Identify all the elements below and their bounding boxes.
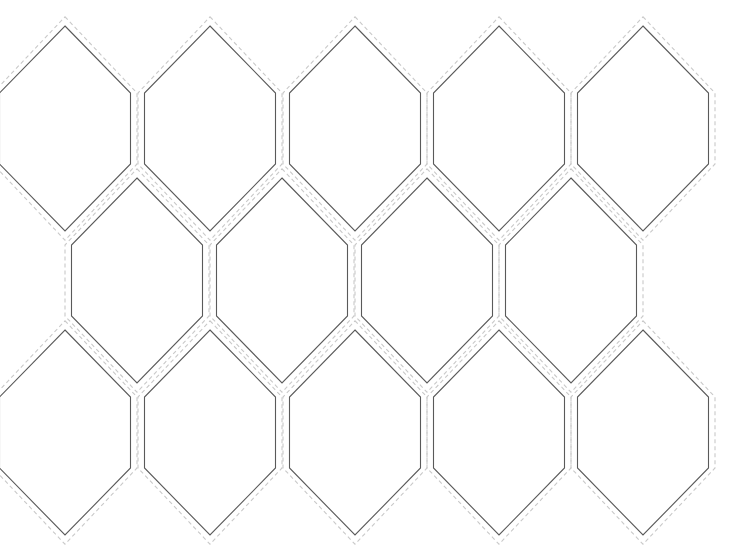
hexagon-template-canvas — [0, 0, 737, 560]
background — [0, 0, 737, 560]
